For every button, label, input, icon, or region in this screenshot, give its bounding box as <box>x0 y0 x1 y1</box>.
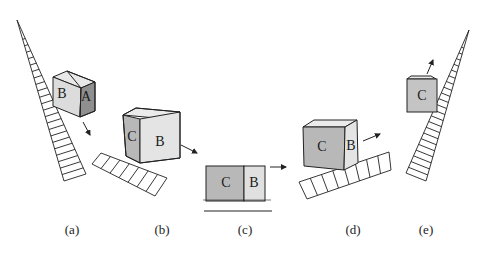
face-label-d-1: C <box>317 139 326 154</box>
face-label-a-1: B <box>57 86 66 101</box>
diagram-canvas: B A C B C B C B <box>0 0 484 254</box>
caption-d: (d) <box>345 222 360 238</box>
arrow-e <box>427 60 433 74</box>
caption-b: (b) <box>154 222 169 238</box>
arrow-a <box>83 122 90 135</box>
face-label-b-2: B <box>155 134 164 149</box>
face-label-e-1: C <box>417 88 426 103</box>
face-label-c-2: B <box>249 175 258 190</box>
caption-a: (a) <box>65 222 79 238</box>
caption-e: (e) <box>419 222 433 238</box>
face-label-b-1: C <box>127 129 136 144</box>
face-label-c-1: C <box>221 175 230 190</box>
arrow-d <box>363 134 380 141</box>
arrow-b <box>181 145 197 153</box>
face-label-a-2: A <box>81 89 92 104</box>
face-label-d-2: B <box>346 138 355 153</box>
caption-c: (c) <box>238 222 252 238</box>
